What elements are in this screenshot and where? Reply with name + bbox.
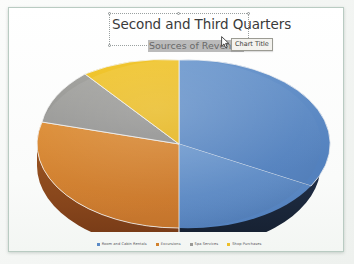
chart-title-tooltip: Chart Title — [231, 38, 273, 51]
legend-swatch-room-and-cabin-rentals — [97, 243, 100, 246]
chart-legend[interactable]: Room and Cabin Rentals Excursions Spa Se… — [23, 242, 335, 247]
selection-handle-top-middle[interactable] — [177, 12, 180, 15]
mouse-cursor-icon — [221, 36, 230, 49]
legend-swatch-shop-purchases — [227, 243, 230, 246]
legend-label-shop-purchases: Shop Purchases — [232, 242, 261, 247]
slide-page[interactable]: Second and Third Quarters Sources of Rev… — [8, 7, 344, 252]
chart-title[interactable]: Second and Third Quarters — [112, 16, 246, 32]
legend-item-shop-purchases[interactable]: Shop Purchases — [227, 242, 261, 247]
chart-title-block[interactable]: Second and Third Quarters — [112, 16, 246, 32]
legend-swatch-excursions — [156, 243, 159, 246]
pie-sheen-overlay — [37, 60, 321, 228]
selection-handle-top-left[interactable] — [108, 12, 111, 15]
pie-chart-graphic[interactable] — [23, 44, 335, 232]
selection-handle-bottom-left[interactable] — [108, 44, 111, 47]
legend-label-room-and-cabin-rentals: Room and Cabin Rentals — [102, 242, 147, 247]
legend-item-room-and-cabin-rentals[interactable]: Room and Cabin Rentals — [97, 242, 147, 247]
legend-item-spa-services[interactable]: Spa Services — [190, 242, 219, 247]
selection-handle-top-right[interactable] — [247, 12, 250, 15]
legend-label-excursions: Excursions — [161, 242, 181, 247]
legend-swatch-spa-services — [190, 243, 193, 246]
legend-item-excursions[interactable]: Excursions — [156, 242, 181, 247]
legend-label-spa-services: Spa Services — [195, 242, 219, 247]
slide-canvas: Second and Third Quarters Sources of Rev… — [0, 0, 354, 264]
pie-chart-svg[interactable] — [23, 44, 335, 232]
